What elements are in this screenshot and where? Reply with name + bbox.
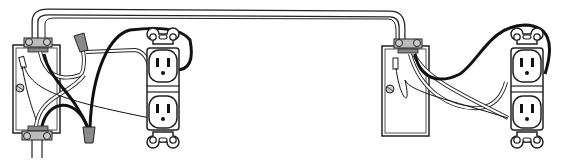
electrical-box-right xyxy=(382,39,429,136)
wiring-diagram xyxy=(0,0,569,160)
receptacle-right xyxy=(511,28,543,148)
receptacle-left xyxy=(147,28,179,148)
cable-run xyxy=(35,12,402,42)
wire-nut-bottom xyxy=(83,127,95,143)
wire-nut-top xyxy=(74,33,88,52)
